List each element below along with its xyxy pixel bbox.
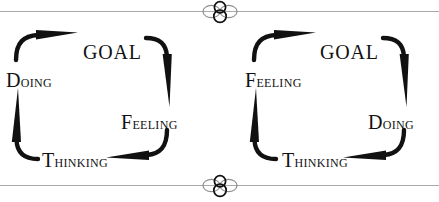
node-doing: Doing — [6, 70, 52, 91]
node-doing: Doing — [368, 112, 414, 133]
arrow-feeling-to-thinking — [106, 130, 167, 160]
arrow-doing-to-thinking — [343, 130, 404, 160]
node-feeling: Feeling — [245, 70, 302, 91]
cycle-diagram-left: GOAL Doing Feeling Thinking — [0, 12, 219, 185]
cycle-diagram-right: GOAL Feeling Doing Thinking — [220, 12, 439, 185]
arrow-goal-to-feeling — [146, 38, 172, 107]
node-thinking: Thinking — [282, 150, 348, 171]
node-goal: GOAL — [83, 42, 142, 62]
arrow-thinking-to-doing — [12, 88, 38, 159]
arrow-thinking-to-feeling — [250, 88, 276, 159]
node-feeling: Feeling — [121, 112, 178, 133]
circle-cluster-ornament — [197, 173, 243, 199]
arrow-feeling-to-goal — [254, 30, 316, 60]
arrow-doing-to-goal — [16, 30, 78, 60]
figure-page: GOAL Doing Feeling Thinking — [0, 0, 439, 202]
cycle-arrows-left — [0, 12, 219, 185]
node-thinking: Thinking — [42, 150, 108, 171]
arrow-goal-to-doing — [383, 38, 409, 107]
node-goal: GOAL — [320, 42, 379, 62]
